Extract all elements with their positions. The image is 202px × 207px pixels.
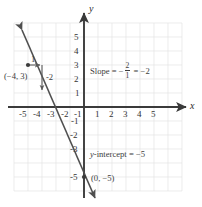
slope-sign: − (119, 66, 124, 76)
x-tick-3: 3 (123, 110, 128, 119)
y-intercept-annotation: y-intercept = −5 (90, 150, 145, 159)
x-axis-label: x (190, 101, 194, 111)
intercept-equals: = (129, 149, 134, 159)
slope-equals-1: = (112, 66, 117, 76)
x-tick--2: -2 (61, 110, 69, 119)
intercept-word: -intercept (94, 149, 127, 159)
x-tick--5: -5 (19, 110, 27, 119)
x-tick--4: -4 (33, 110, 41, 119)
y-tick--5: -5 (70, 173, 78, 182)
x-tick--3: -3 (47, 110, 55, 119)
slope-fraction: 21 (125, 62, 131, 79)
x-tick-5: 5 (151, 110, 156, 119)
slope-prefix-text: Slope (90, 66, 110, 76)
slope-equals-2: = (134, 66, 139, 76)
point-marker-intercept (82, 175, 86, 179)
y-axis-label: y (89, 4, 93, 14)
y-tick-1: 1 (75, 89, 80, 98)
y-tick-4: 4 (74, 47, 79, 56)
intercept-value: −5 (136, 149, 145, 159)
x-tick-4: 4 (137, 110, 142, 119)
y-tick-5: 5 (74, 33, 79, 42)
rise-label: -2 (46, 73, 53, 82)
y-tick-3: 3 (74, 61, 79, 70)
graph-figure: y x -5 -4 -3 -2 -1 1 2 3 4 5 5 4 3 2 1 -… (0, 0, 202, 207)
slope-numerator: 2 (125, 62, 131, 70)
y-tick-2: 2 (74, 75, 79, 84)
y-tick--2: -2 (70, 131, 78, 140)
point-marker-upper (26, 63, 30, 67)
slope-result: −2 (141, 66, 150, 76)
slope-annotation: Slope = −21 = −2 (90, 62, 150, 79)
run-label: 1 (31, 55, 35, 64)
slope-denominator: 1 (125, 72, 131, 80)
point-label-upper: (−4, 3) (4, 72, 27, 81)
x-tick-2: 2 (109, 110, 114, 119)
y-tick--1: -1 (71, 117, 79, 126)
x-tick-1: 1 (95, 110, 100, 119)
y-tick--3: -3 (70, 145, 78, 154)
point-label-intercept: (0, −5) (91, 174, 114, 183)
axes (8, 13, 186, 198)
